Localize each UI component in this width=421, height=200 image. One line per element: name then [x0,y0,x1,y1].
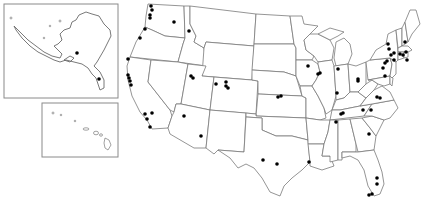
location-marker [361,108,365,112]
location-marker [381,66,385,70]
hawaii-island-molokai [83,128,89,130]
location-marker [369,108,373,112]
hawaii-island-lanai [100,134,103,136]
state-new-mexico [206,110,246,154]
location-marker [335,91,339,95]
location-marker [279,94,283,98]
location-marker [392,58,396,62]
location-marker [307,160,311,164]
location-marker [275,162,279,166]
location-marker [334,120,338,124]
location-marker [375,176,379,180]
location-marker [261,158,265,162]
state-montana [190,6,256,48]
hawaii-island-kauai [60,114,62,116]
location-marker [383,74,387,78]
location-marker [191,76,195,80]
location-marker [182,114,186,118]
location-marker [145,117,149,121]
location-marker [149,4,153,8]
location-marker [226,86,230,90]
location-marker [401,53,405,57]
location-marker [75,51,79,55]
location-marker [138,36,142,40]
state-florida [342,150,384,196]
location-marker [128,79,132,83]
location-marker [318,71,322,75]
location-marker [148,125,152,129]
hawaii-island-big-island [104,138,111,150]
hawaii-island-maui [94,131,99,135]
alaska-island [10,17,12,19]
state-north-dakota [254,14,294,44]
location-marker [389,53,393,57]
state-maine [405,10,420,42]
state-michigan [334,38,352,66]
location-marker [367,132,371,136]
location-marker [387,47,391,51]
alaska-inset-frame [4,4,118,98]
location-marker [370,192,374,196]
alaska-island [59,20,61,22]
location-marker [187,29,191,33]
alaska-inset [4,4,118,98]
location-marker [150,111,154,115]
location-marker [224,80,228,84]
state-wyoming [202,42,254,80]
location-marker [150,8,154,12]
location-marker [341,111,345,115]
location-marker [172,20,176,24]
location-marker [378,96,382,100]
state-new-york [370,30,398,62]
location-marker [129,83,133,87]
location-marker [356,77,360,81]
hawaii-inset [42,103,118,157]
location-marker [126,57,130,61]
location-marker [405,58,409,62]
location-marker [199,134,203,138]
location-marker [148,16,152,20]
location-marker [214,82,218,86]
location-marker [385,59,389,63]
location-marker [386,42,390,46]
us-point-map [0,0,421,200]
state-arizona [168,104,210,148]
state-colorado [210,77,258,114]
alaska-island [49,25,51,27]
contiguous-us [127,4,420,196]
location-marker [375,182,379,186]
hawaii-island-niihau [52,112,54,114]
location-marker [404,50,408,54]
location-marker [403,40,407,44]
location-marker [97,77,101,81]
location-marker [306,64,310,68]
alaska-outline [14,12,111,90]
location-marker [143,27,147,31]
hawaii-island-oahu [74,120,76,122]
location-marker [392,51,396,55]
location-marker [143,112,147,116]
location-marker [336,67,340,71]
alaska-island [43,37,45,39]
